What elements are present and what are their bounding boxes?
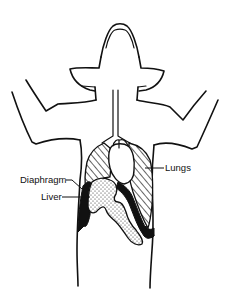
right-ear-inner: [138, 86, 146, 87]
label-diaphragm: Diaphragm: [20, 174, 67, 185]
right-arm-upper: [137, 91, 206, 120]
right-arm-lower: [154, 100, 218, 149]
neck-right: [137, 87, 138, 100]
label-lungs: Lungs: [165, 162, 191, 173]
heart: [109, 144, 135, 184]
label-liver: Liver: [41, 191, 62, 202]
anatomy-diagram: Lungs Diaphragm Liver: [0, 0, 232, 297]
left-arm-upper: [26, 80, 96, 111]
left-arm-lower: [12, 92, 80, 144]
trachea: [102, 90, 130, 143]
snout-inner: [106, 29, 134, 48]
neck-left: [95, 87, 96, 100]
